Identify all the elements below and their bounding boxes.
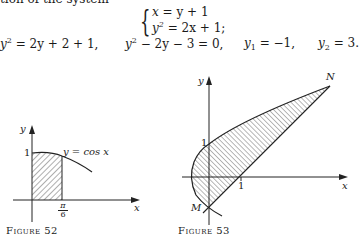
fig53-y-label: y <box>198 76 204 86</box>
figure-53 <box>182 76 348 225</box>
fig52-x-tick: π 6 <box>58 202 68 220</box>
fig53-point-m: M <box>191 203 201 213</box>
fig53-y-arrow <box>206 76 212 85</box>
fig53-x-label: x <box>342 181 348 191</box>
fig52-curve-label: y = cos x <box>63 147 109 157</box>
fig53-x-tick-label: 1 <box>238 181 244 191</box>
fig52-x-tick-den: 6 <box>58 211 68 220</box>
figures-canvas <box>0 0 364 243</box>
fig52-shaded-region <box>32 153 62 200</box>
fig52-x-label: x <box>134 203 140 213</box>
fig52-y-label: y <box>20 124 26 134</box>
fig52-y-arrow <box>29 125 35 134</box>
figure-52-caption: Figure 52 <box>6 226 58 236</box>
fig53-shaded-region <box>192 86 330 207</box>
fig53-y-tick: 1 <box>201 138 207 148</box>
fig53-point-n: N <box>326 72 335 82</box>
figure-52 <box>13 125 140 222</box>
figure-53-caption: Figure 53 <box>178 226 230 236</box>
fig52-y-tick: 1 <box>24 148 30 158</box>
